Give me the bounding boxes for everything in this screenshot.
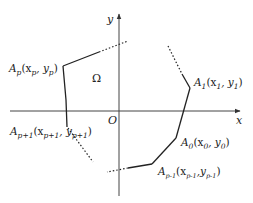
diagram-canvas: y x O Ω Ap(xp, yp) Ap+1(xp+1, yp+1) A1(x…: [0, 0, 253, 203]
edge-ap-solid: [63, 52, 99, 66]
edge-ap-1-solid: [128, 164, 152, 168]
polygon-diagram: y x O Ω Ap(xp, yp) Ap+1(xp+1, yp+1) A1(x…: [0, 0, 253, 203]
edge-a0-to-ap-1: [152, 138, 176, 164]
edge-ap-1-dotted-extension: [107, 168, 128, 172]
y-axis-label: y: [106, 13, 114, 26]
edge-a1-solid-top: [182, 74, 190, 88]
region-omega-label: Ω: [92, 72, 101, 85]
edge-ap-to-ap1: [63, 66, 67, 127]
vertex-label-ap-minus-1: Ap-1(xp-1,yp-1): [157, 165, 221, 180]
vertex-label-ap1: Ap+1(xp+1, yp+1): [9, 125, 92, 140]
origin-label: O: [108, 114, 117, 127]
edge-a1-dotted-extension: [168, 46, 182, 74]
vertex-label-a0: A0(x0, y0): [180, 136, 230, 151]
edge-a1-to-a0: [176, 88, 190, 138]
edge-ap-dotted-extension: [99, 41, 128, 52]
vertex-label-ap: Ap(xp, yp): [8, 62, 58, 77]
x-axis-label: x: [236, 114, 243, 127]
vertex-label-a1: A1(x1, y1): [193, 76, 243, 91]
